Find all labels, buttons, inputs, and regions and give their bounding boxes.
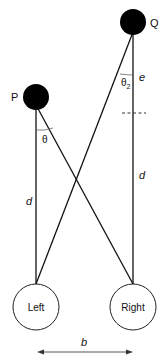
label-theta2: θ2 xyxy=(121,77,131,90)
theta-arc xyxy=(36,128,53,130)
point-p xyxy=(23,84,49,110)
point-q xyxy=(120,9,146,35)
label-left: Left xyxy=(28,302,45,313)
label-theta: θ xyxy=(42,134,48,145)
label-e: e xyxy=(139,71,145,83)
label-d-right: d xyxy=(139,169,146,181)
label-p: P xyxy=(11,91,18,103)
label-d-left: d xyxy=(26,195,33,207)
label-q: Q xyxy=(150,17,159,29)
diagram-canvas: Q P θ θ2 e d d Left Right b xyxy=(0,0,164,360)
line-p-to-right xyxy=(36,105,133,284)
arrowhead-right-icon xyxy=(126,350,133,355)
line-q-to-left xyxy=(36,32,133,284)
theta2-arc xyxy=(120,74,133,75)
label-right: Right xyxy=(121,302,145,313)
arrowhead-left-icon xyxy=(37,350,44,355)
label-b: b xyxy=(81,336,87,348)
stereo-geometry-diagram: Q P θ θ2 e d d Left Right b xyxy=(0,0,164,360)
